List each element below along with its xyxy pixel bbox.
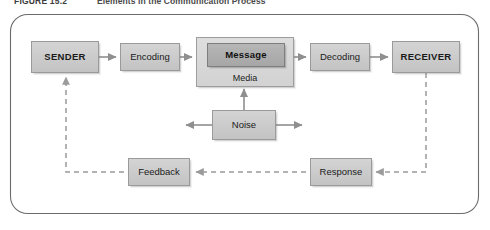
node-decoding-label: Decoding bbox=[320, 52, 360, 62]
node-sender[interactable]: SENDER bbox=[31, 41, 99, 73]
node-response[interactable]: Response bbox=[310, 158, 372, 186]
node-noise-label: Noise bbox=[232, 120, 256, 130]
node-noise[interactable]: Noise bbox=[212, 110, 276, 140]
node-media[interactable]: Message Media bbox=[196, 37, 294, 87]
node-media-label: Media bbox=[197, 74, 293, 83]
node-encoding[interactable]: Encoding bbox=[120, 43, 180, 71]
node-encoding-label: Encoding bbox=[130, 52, 170, 62]
node-feedback-label: Feedback bbox=[138, 167, 180, 177]
node-feedback[interactable]: Feedback bbox=[128, 158, 190, 186]
node-receiver-label: RECEIVER bbox=[401, 52, 452, 62]
node-message[interactable]: Message bbox=[207, 43, 285, 67]
node-response-label: Response bbox=[320, 167, 363, 177]
node-message-label: Message bbox=[225, 50, 267, 60]
node-decoding[interactable]: Decoding bbox=[310, 43, 370, 71]
node-receiver[interactable]: RECEIVER bbox=[392, 41, 460, 73]
figure-container: FIGURE 15.2 Elements in the Communicatio… bbox=[0, 0, 490, 230]
node-sender-label: SENDER bbox=[44, 52, 85, 62]
